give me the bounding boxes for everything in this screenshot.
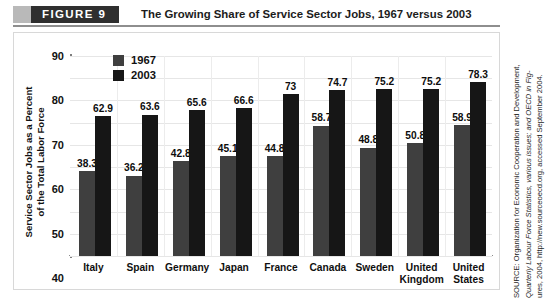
bar-value-label: 58.7	[312, 113, 332, 123]
source-line-1: SOURCE: Organization for Economic Cooper…	[511, 32, 523, 298]
figure-tab-accent	[13, 6, 31, 23]
source-note: SOURCE: Organization for Economic Cooper…	[511, 32, 547, 298]
x-axis-tick-label: United States	[445, 262, 492, 285]
bar-2003[interactable]: 62.9	[95, 116, 111, 256]
bar-1967[interactable]: 58.9	[454, 125, 470, 256]
bar-value-label: 63.6	[140, 102, 160, 112]
bar-value-label: 50.8	[405, 131, 425, 141]
bar-group: 58.978.3	[445, 56, 492, 256]
bar-value-label: 38.3	[77, 159, 97, 169]
legend-item-2003[interactable]: 2003	[113, 70, 156, 81]
bar-2003[interactable]: 65.6	[189, 110, 205, 256]
bar-group: 58.774.7	[304, 56, 351, 256]
bar-1967[interactable]: 50.8	[407, 143, 423, 256]
legend-item-1967[interactable]: 1967	[113, 55, 156, 66]
y-axis-tick-label: 70	[52, 139, 64, 150]
bar-value-label: 78.3	[468, 70, 488, 80]
bar-1967[interactable]: 44.8	[267, 156, 283, 256]
bar-1967[interactable]: 42.8	[173, 161, 189, 256]
bar-value-label: 74.7	[328, 78, 348, 88]
gridline: 0	[70, 256, 492, 257]
bar-1967[interactable]: 48.8	[360, 148, 376, 256]
bar-2003[interactable]: 66.6	[236, 108, 252, 256]
bar-2003[interactable]: 75.2	[423, 89, 439, 256]
bar-2003[interactable]: 73	[283, 94, 299, 256]
legend-swatch-icon	[113, 55, 124, 66]
source-line-2: Quarterly Labour Force Statistics, vario…	[523, 32, 535, 298]
bar-group: 48.875.2	[351, 56, 398, 256]
bar-1967[interactable]: 45.1	[220, 156, 236, 256]
bar-value-label: 75.2	[374, 77, 394, 87]
y-axis-tick-label: 90	[52, 51, 64, 62]
x-axis-tick-label: Canada	[304, 262, 351, 274]
bar-value-label: 75.2	[421, 77, 441, 87]
chart-legend: 19672003	[113, 55, 156, 81]
bar-group: 45.166.6	[211, 56, 258, 256]
bar-value-label: 36.2	[124, 163, 144, 173]
header-divider	[13, 25, 500, 27]
y-axis-tick-label: 50	[52, 228, 64, 239]
x-axis-tick-label: Italy	[70, 262, 117, 274]
bar-value-label: 58.9	[452, 113, 472, 123]
bar-value-label: 73	[285, 82, 296, 92]
bar-value-label: 62.9	[93, 104, 113, 114]
bar-group: 38.362.9	[70, 56, 117, 256]
x-axis-tick-label: France	[258, 262, 305, 274]
x-axis-tick-label: United Kingdom	[398, 262, 445, 285]
x-axis-tick-label: Germany	[164, 262, 211, 274]
legend-label: 1967	[131, 55, 156, 66]
source-line-3: ures, 2004, http://new.sourceoecd.org, a…	[534, 32, 546, 298]
bar-2003[interactable]: 75.2	[376, 89, 392, 256]
bar-2003[interactable]: 63.6	[142, 115, 158, 256]
figure-title: The Growing Share of Service Sector Jobs…	[141, 7, 471, 22]
figure-header: FIGURE 9 The Growing Share of Service Se…	[13, 6, 500, 26]
y-axis-title-line2: of the Total Labor Force	[35, 107, 47, 216]
bar-1967[interactable]: 36.2	[126, 176, 142, 256]
figure-container: FIGURE 9 The Growing Share of Service Se…	[0, 0, 560, 303]
y-axis-title: Service Sector Jobs as a Percent of the …	[22, 46, 48, 278]
figure-number-tab: FIGURE 9	[13, 6, 119, 23]
bar-group: 42.865.6	[164, 56, 211, 256]
x-axis-tick-label: Spain	[117, 262, 164, 274]
y-axis-tick-label: 80	[52, 95, 64, 106]
bar-value-label: 48.8	[358, 135, 378, 145]
bar-value-label: 45.1	[218, 144, 238, 154]
bar-2003[interactable]: 74.7	[329, 90, 345, 256]
x-axis-tick-label: Sweden	[351, 262, 398, 274]
y-axis-title-line1: Service Sector Jobs as a Percent	[23, 87, 35, 238]
legend-label: 2003	[131, 70, 156, 81]
y-axis-tick-label: 40	[52, 273, 64, 284]
legend-swatch-icon	[113, 70, 124, 81]
plot-area: 908070605040302010038.362.936.263.642.86…	[70, 56, 492, 256]
bar-group: 50.875.2	[398, 56, 445, 256]
x-axis-tick-label: Japan	[211, 262, 258, 274]
figure-number-label: FIGURE 9	[31, 6, 119, 23]
bar-group: 44.873	[258, 56, 305, 256]
bar-value-label: 66.6	[234, 96, 254, 106]
bar-value-label: 44.8	[265, 144, 285, 154]
bar-2003[interactable]: 78.3	[470, 82, 486, 256]
bar-value-label: 42.8	[171, 149, 191, 159]
bar-1967[interactable]: 38.3	[79, 171, 95, 256]
y-axis-tick-label: 60	[52, 184, 64, 195]
bar-1967[interactable]: 58.7	[313, 126, 329, 256]
bar-group: 36.263.6	[117, 56, 164, 256]
bar-value-label: 65.6	[187, 98, 207, 108]
